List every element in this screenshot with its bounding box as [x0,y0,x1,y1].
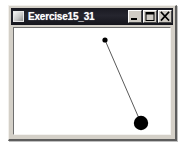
window-title-text: Exercise15_31 [28,11,127,22]
window-title-bar[interactable]: Exercise15_31 [11,8,173,25]
close-icon [159,11,171,22]
screenshot-root: Exercise15_31 [0,0,184,150]
close-button[interactable] [158,10,172,23]
canvas-background [14,28,171,135]
window-client-area [13,27,171,135]
pendulum-animation-canvas[interactable] [14,28,171,135]
maximize-button[interactable] [143,10,157,23]
window-app-icon [13,11,24,22]
pendulum-pivot [102,37,107,42]
maximize-icon [144,11,156,22]
pendulum-bob[interactable] [134,116,148,130]
minimize-icon [129,11,141,22]
minimize-button[interactable] [128,10,142,23]
application-window: Exercise15_31 [8,5,177,141]
